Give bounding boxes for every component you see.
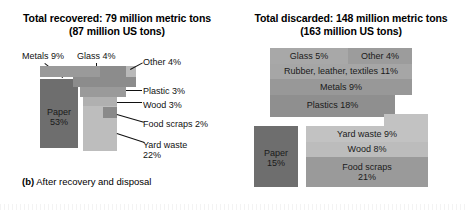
right-block-plastics: Plastics 18% bbox=[270, 95, 395, 117]
left-block-metals bbox=[40, 66, 100, 77]
scan-artifact-strip bbox=[0, 204, 468, 210]
right-plastics-label: Plastics 18% bbox=[270, 100, 395, 111]
right-paper-label-line1: Paper bbox=[254, 148, 298, 158]
right-block-paper: Paper 15% bbox=[254, 126, 298, 187]
left-wood-callout: Wood 3% bbox=[143, 100, 182, 111]
left-block-glass bbox=[100, 66, 126, 77]
caption-prefix: (b) bbox=[22, 176, 34, 187]
right-chart-panel: Total discarded: 148 million metric tons… bbox=[234, 0, 468, 213]
right-rubber-label: Rubber, leather, textiles 11% bbox=[270, 66, 412, 77]
plastic-leader-line bbox=[126, 90, 142, 91]
right-glass-label: Glass 5% bbox=[270, 51, 348, 62]
left-glass-top-label: Glass 4% bbox=[77, 51, 116, 62]
yard-waste-leader-line bbox=[117, 133, 145, 143]
right-block-wood: Wood 8% bbox=[306, 142, 428, 157]
figure-caption: (b) After recovery and disposal bbox=[22, 176, 151, 188]
left-plastic-callout: Plastic 3% bbox=[143, 86, 185, 97]
left-paper-label-line2: 53% bbox=[40, 117, 78, 127]
left-other-callout: Other 4% bbox=[143, 57, 181, 68]
right-block-other: Other 4% bbox=[348, 48, 412, 64]
right-block-food-scraps: Food scraps 21% bbox=[306, 157, 428, 187]
right-food-scraps-label-line2: 21% bbox=[306, 172, 428, 182]
food-scraps-leader-line bbox=[117, 114, 144, 123]
left-paper-label-line1: Paper bbox=[40, 107, 78, 117]
right-metals-label: Metals 9% bbox=[270, 82, 412, 93]
right-yard-waste-label: Yard waste 9% bbox=[306, 129, 428, 140]
right-block-yard-waste-step bbox=[384, 114, 428, 126]
right-block-yard-waste: Yard waste 9% bbox=[306, 126, 428, 142]
left-metals-top-label: Metals 9% bbox=[22, 51, 64, 62]
left-block-glass-lower-edge bbox=[126, 77, 136, 87]
left-block-paper: Paper 53% bbox=[40, 87, 78, 148]
left-yard-waste-callout-line1: Yard waste bbox=[143, 140, 187, 151]
right-wood-label: Wood 8% bbox=[306, 144, 428, 155]
figure-after-recovery-and-disposal: Total recovered: 79 million metric tons … bbox=[0, 0, 468, 213]
wood-leader-line bbox=[117, 102, 142, 103]
left-chart-panel: Total recovered: 79 million metric tons … bbox=[0, 0, 234, 213]
right-block-glass: Glass 5% bbox=[270, 48, 348, 64]
right-paper-label-line2: 15% bbox=[254, 158, 298, 168]
caption-text: After recovery and disposal bbox=[36, 176, 151, 187]
left-block-food-scraps bbox=[103, 107, 117, 118]
left-treemap: Metals 9% Glass 4% Paper 53% bbox=[0, 0, 234, 175]
right-food-scraps-label-line1: Food scraps bbox=[306, 162, 428, 172]
left-block-glass-lower bbox=[73, 77, 126, 87]
right-block-metals: Metals 9% bbox=[270, 79, 412, 95]
right-treemap: Glass 5% Other 4% Rubber, leather, texti… bbox=[234, 0, 468, 190]
left-food-scraps-callout: Food scraps 2% bbox=[143, 119, 208, 130]
left-block-wood bbox=[83, 97, 117, 106]
left-yard-waste-callout-line2: 22% bbox=[143, 150, 161, 161]
left-block-paper-top bbox=[40, 79, 73, 87]
right-other-label: Other 4% bbox=[348, 51, 412, 62]
left-block-plastic bbox=[80, 87, 126, 97]
right-block-rubber-leather-textiles: Rubber, leather, textiles 11% bbox=[270, 64, 412, 79]
